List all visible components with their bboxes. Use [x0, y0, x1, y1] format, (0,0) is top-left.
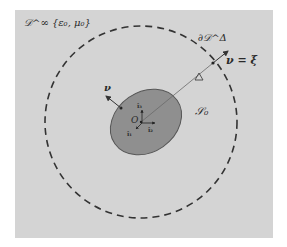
scatterer-ellipse	[98, 76, 195, 169]
boundary-point	[211, 61, 214, 64]
normal-equation-label: ν = ξ	[226, 55, 257, 66]
basis-i2-label: î₂	[148, 127, 153, 133]
surface-normal-arrow	[106, 96, 121, 108]
basis-i3-label: î₃	[137, 103, 142, 109]
basis-i1-label: î₁	[127, 131, 132, 137]
scatterer-label: 𝒮₀	[195, 106, 208, 117]
diagram-canvas	[0, 0, 287, 247]
surface-normal-label: ν	[104, 83, 111, 93]
region-label: 𝒟^∞ {ε₀, μ₀}	[24, 18, 91, 28]
origin-label: O	[131, 116, 138, 125]
boundary-label: ∂𝒟^Δ	[198, 33, 227, 43]
